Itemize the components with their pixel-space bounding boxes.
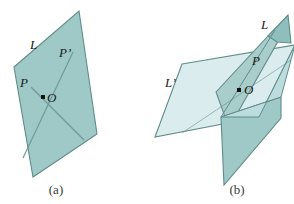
point-label-P-prime: P’ — [58, 45, 71, 60]
point-label-P: P — [19, 75, 28, 90]
line-label-L: L — [29, 37, 37, 52]
plane-b-wedge-L — [268, 15, 291, 43]
panel-b-caption: (b) — [229, 182, 244, 197]
point-label-O: O — [244, 82, 254, 97]
point-label-P: P — [251, 53, 260, 68]
line-label-L: L — [260, 17, 268, 32]
panel-a: L P’ P O (a) — [14, 11, 97, 197]
line-label-L-prime: L’ — [164, 75, 176, 90]
geometry-figure: L P’ P O (a) L L’ P O (b) — [0, 0, 294, 204]
origin-point-O-marker — [41, 95, 45, 99]
origin-point-O-marker — [237, 88, 241, 92]
panel-a-caption: (a) — [49, 182, 63, 197]
panel-b: L L’ P O (b) — [155, 15, 294, 197]
point-label-O: O — [47, 90, 57, 105]
